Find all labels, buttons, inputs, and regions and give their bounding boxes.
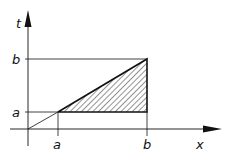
x-tick-a-label: a — [53, 137, 61, 152]
diagram-canvas: t x b a a b — [0, 0, 230, 154]
x-tick-b-label: b — [143, 137, 151, 152]
t-axis-arrow-icon — [25, 10, 32, 27]
x-axis-label: x — [195, 137, 204, 152]
t-tick-b-label: b — [12, 52, 20, 67]
t-tick-a-label: a — [12, 105, 20, 120]
t-axis-label: t — [16, 16, 22, 31]
x-axis-arrow-icon — [203, 126, 222, 133]
diagonal-line — [28, 112, 58, 129]
